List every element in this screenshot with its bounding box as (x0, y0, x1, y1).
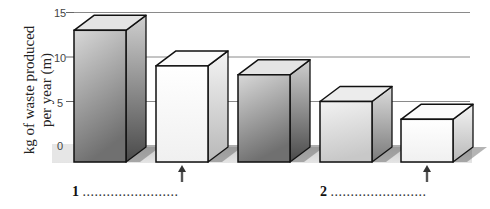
answer-dots-1: ........................ (83, 184, 179, 199)
answer-blank-2[interactable]: 2 ........................ (320, 184, 427, 200)
arrow-up-icon (178, 165, 186, 182)
y-axis-label-line-2: per year (m) (38, 26, 55, 155)
y-tick-10: 10 (54, 52, 66, 64)
y-axis-label-line-1: kg of waste produced (21, 26, 38, 155)
answer-number-1: 1 (72, 184, 79, 199)
bar-5 (401, 104, 487, 162)
arrow-up-icon (423, 165, 431, 182)
bars (74, 15, 487, 162)
arrows (178, 165, 431, 182)
answer-number-2: 2 (320, 184, 327, 199)
y-tick-15: 15 (54, 7, 66, 19)
answer-blank-1[interactable]: 1 ........................ (72, 184, 179, 200)
chart-canvas (0, 0, 490, 209)
bar-1 (74, 15, 160, 162)
bar-chart: kg of waste produced per year (m) 0 5 10… (0, 0, 490, 209)
bar-4 (320, 87, 406, 163)
y-tick-0: 0 (57, 140, 63, 152)
answer-dots-2: ........................ (331, 184, 427, 199)
y-tick-5: 5 (57, 97, 63, 109)
